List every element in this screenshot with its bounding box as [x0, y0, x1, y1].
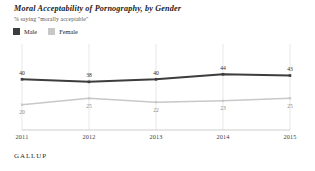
data-point-label: 43 [287, 66, 293, 72]
x-axis-tick-labels: 20112012201320142015 [0, 133, 315, 147]
legend-item-female[interactable]: Female [48, 28, 78, 35]
chart-title: Moral Acceptability of Pornography, by G… [14, 4, 181, 13]
x-axis-tick-label: 2013 [149, 133, 162, 140]
line-chart-svg: 40384044432025222325 [0, 42, 315, 134]
x-axis-tick-label: 2012 [82, 133, 95, 140]
gallup-logo: GALLUP [14, 152, 47, 160]
chart-legend: Male Female [13, 28, 78, 35]
data-point-marker[interactable] [222, 100, 224, 102]
data-point-marker[interactable] [88, 97, 90, 99]
data-point-label: 44 [220, 65, 226, 71]
x-axis-tick-label: 2014 [216, 133, 229, 140]
plot-area: 40384044432025222325 [0, 42, 315, 134]
legend-item-label: Male [24, 28, 37, 35]
data-point-label: 25 [287, 103, 293, 109]
data-point-label: 38 [86, 72, 92, 78]
x-axis-tick-label: 2011 [16, 133, 29, 140]
data-point-label: 25 [86, 103, 92, 109]
data-point-marker[interactable] [289, 97, 291, 99]
square-swatch-icon [48, 28, 55, 35]
gridlines [22, 44, 290, 130]
data-point-label: 23 [220, 105, 226, 111]
data-point-marker[interactable] [21, 104, 23, 106]
legend-item-label: Female [59, 28, 78, 35]
data-point-marker[interactable] [155, 78, 158, 81]
data-point-marker[interactable] [21, 78, 24, 81]
data-point-label: 22 [153, 107, 159, 113]
data-point-label: 40 [19, 70, 25, 76]
x-axis-tick-label: 2015 [283, 133, 296, 140]
data-point-label: 20 [19, 109, 25, 115]
chart-subtitle: % saying "morally acceptable" [14, 16, 88, 22]
data-point-marker[interactable] [88, 81, 91, 84]
square-swatch-icon [13, 28, 20, 35]
data-point-marker[interactable] [222, 73, 225, 76]
data-point-marker[interactable] [289, 74, 292, 77]
data-point-marker[interactable] [155, 101, 157, 103]
data-point-label: 40 [153, 70, 159, 76]
chart-card: Moral Acceptability of Pornography, by G… [0, 0, 315, 171]
legend-item-male[interactable]: Male [13, 28, 37, 35]
